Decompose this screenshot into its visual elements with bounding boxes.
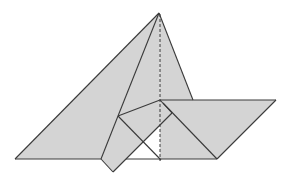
origami-diagram <box>0 0 291 186</box>
